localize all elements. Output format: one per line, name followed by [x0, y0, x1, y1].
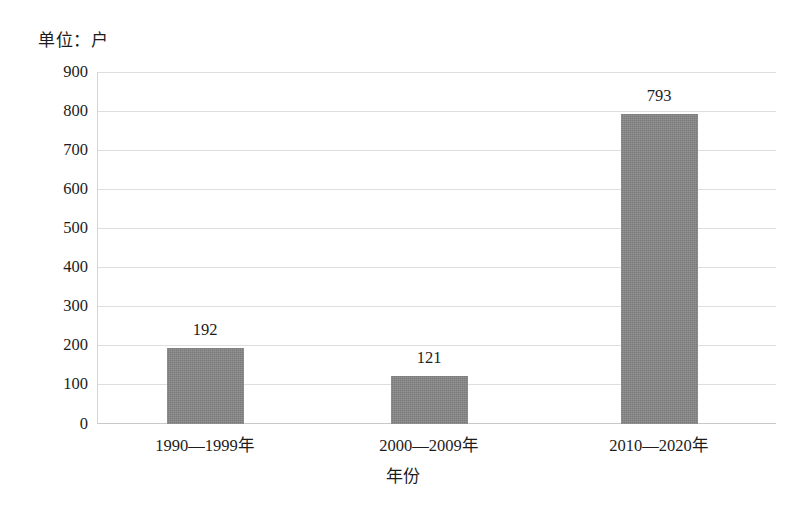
y-axis-tick-700: 700 — [28, 142, 88, 159]
bar-value-1990-1999: 192 — [145, 322, 265, 339]
x-axis-tick-1990-1999: 1990—1999年 — [105, 436, 305, 456]
y-axis-tick-500: 500 — [28, 220, 88, 237]
gridline-900 — [98, 72, 776, 73]
y-axis-tick-300: 300 — [28, 298, 88, 315]
x-axis-tick-2000-2009: 2000—2009年 — [329, 436, 529, 456]
y-axis-tick-400: 400 — [28, 259, 88, 276]
bar-value-2010-2020: 793 — [599, 88, 719, 105]
y-axis-tick-0: 0 — [28, 416, 88, 433]
bar-1990-1999[interactable] — [167, 348, 244, 424]
bar-2010-2020[interactable] — [621, 114, 698, 424]
plot-area — [97, 72, 775, 424]
y-axis-tick-100: 100 — [28, 376, 88, 393]
unit-label: 单位：户 — [38, 30, 108, 52]
y-axis-tick-600: 600 — [28, 181, 88, 198]
gridline-800 — [98, 111, 776, 112]
bar-2000-2009[interactable] — [391, 376, 468, 424]
bar-chart-figure: 单位：户 900 800 700 600 500 400 300 200 100… — [0, 0, 806, 524]
y-axis-tick-200: 200 — [28, 337, 88, 354]
y-axis-tick-800: 800 — [28, 103, 88, 120]
bar-value-2000-2009: 121 — [369, 350, 489, 367]
y-axis-tick-900: 900 — [28, 64, 88, 81]
x-axis-title: 年份 — [0, 466, 806, 488]
x-axis-tick-2010-2020: 2010—2020年 — [559, 436, 759, 456]
